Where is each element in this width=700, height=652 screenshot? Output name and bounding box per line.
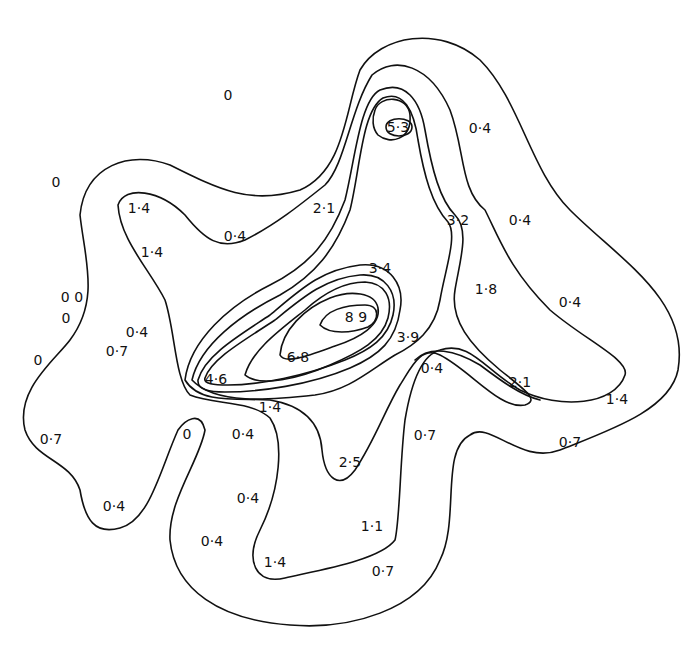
contour-0-4 <box>118 65 625 579</box>
contour-2-1 <box>192 96 452 399</box>
contour-map: 000 0001·41·40·42·15·30·43·20·43·41·80·4… <box>0 0 700 652</box>
contour-label: 0 <box>224 87 233 103</box>
contour-label: 1·4 <box>259 399 281 415</box>
contour-label: 0·4 <box>559 294 581 310</box>
contour-label: 5·3 <box>387 119 409 135</box>
contour-label: 1·4 <box>141 244 163 260</box>
contour-label: 0·7 <box>414 427 436 443</box>
contour-label: 0·4 <box>126 324 148 340</box>
contour-label: 0·4 <box>237 490 259 506</box>
contour-label: 1·4 <box>606 391 628 407</box>
contour-label: 3·9 <box>397 329 419 345</box>
contour-label: 2·1 <box>313 200 335 216</box>
contour-label: 2·1 <box>509 374 531 390</box>
contour-label: 0·7 <box>106 343 128 359</box>
contour-label: 0 <box>62 310 71 326</box>
contour-label: 1·1 <box>361 518 383 534</box>
contour-label: 0·4 <box>201 533 223 549</box>
contour-label: 0·4 <box>509 212 531 228</box>
contour-label: 0 0 <box>61 289 83 305</box>
contour-label: 2·5 <box>339 454 361 470</box>
contour-label: 0·4 <box>224 228 246 244</box>
contour-label: 1·4 <box>264 554 286 570</box>
contour-label: 0·7 <box>40 431 62 447</box>
contour-lines <box>23 38 679 626</box>
contour-label: 6·8 <box>287 349 309 365</box>
contour-label: 4·6 <box>205 371 227 387</box>
contour-label: 0 <box>52 174 61 190</box>
contour-label: 0 <box>34 352 43 368</box>
contour-label: 3·2 <box>447 212 469 228</box>
contour-label: 8 9 <box>345 309 367 325</box>
contour-label: 0·7 <box>372 563 394 579</box>
contour-label: 0·4 <box>469 120 491 136</box>
contour-label: 3·4 <box>369 260 391 276</box>
contour-label: 0·4 <box>421 360 443 376</box>
contour-label: 1·4 <box>128 200 150 216</box>
contour-label: 1·8 <box>475 281 497 297</box>
contour-label: 0·7 <box>559 434 581 450</box>
contour-label: 0·4 <box>103 498 125 514</box>
contour-label: 0·4 <box>232 426 254 442</box>
contour-label: 0 <box>183 426 192 442</box>
